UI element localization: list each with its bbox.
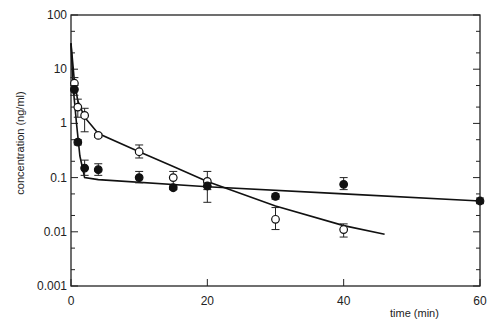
filled-circle-marker — [169, 184, 177, 192]
y-tick-label: 1 — [60, 116, 67, 130]
filled-circle-marker — [74, 138, 82, 146]
fit-line — [71, 43, 480, 201]
data-points — [70, 78, 484, 237]
fit-lines — [71, 43, 480, 234]
y-tick-label: 10 — [54, 62, 68, 76]
filled-circle-marker — [135, 174, 143, 182]
x-tick-label: 60 — [473, 294, 487, 308]
y-tick-label: 0.001 — [37, 279, 67, 293]
filled-circle-marker — [81, 164, 89, 172]
filled-circle-marker — [204, 182, 212, 190]
fit-line — [71, 43, 385, 234]
plot-border — [71, 15, 480, 286]
open-circle-marker — [94, 132, 102, 140]
y-tick-label: 0.1 — [50, 171, 67, 185]
y-tick-label: 0.01 — [44, 225, 68, 239]
x-tick-label: 40 — [337, 294, 351, 308]
plot-frame — [71, 15, 480, 286]
open-circle-marker — [169, 174, 177, 182]
axis-ticks — [71, 15, 480, 286]
x-axis-title: time (min) — [390, 307, 439, 319]
tick-labels: 0.0010.010.11101000204060 — [37, 8, 487, 308]
filled-circle-marker — [476, 197, 484, 205]
filled-circle-marker — [71, 86, 79, 94]
open-circle-marker — [74, 103, 82, 111]
y-axis-title: concentration (ng/ml) — [14, 91, 26, 194]
open-circle-marker — [135, 148, 143, 156]
open-circle-marker — [81, 112, 89, 120]
filled-circle-marker — [94, 166, 102, 174]
chart: 0.0010.010.11101000204060 time (min) con… — [0, 0, 499, 329]
filled-circle-marker — [272, 193, 280, 201]
filled-circle-marker — [340, 181, 348, 189]
y-tick-label: 100 — [47, 8, 67, 22]
x-tick-label: 20 — [201, 294, 215, 308]
x-tick-label: 0 — [68, 294, 75, 308]
open-circle-marker — [340, 226, 348, 234]
open-circle-marker — [272, 216, 280, 224]
